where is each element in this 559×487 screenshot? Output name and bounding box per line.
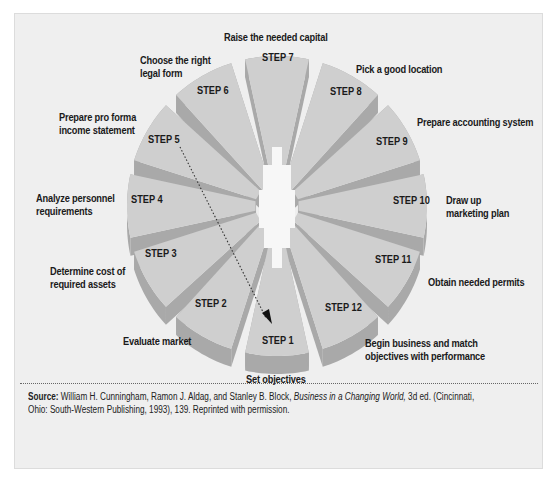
step-label-2: STEP 2 — [195, 297, 227, 309]
step-label-3: STEP 3 — [145, 247, 177, 259]
step-8-description: Pick a good location — [356, 63, 442, 76]
step-9-description: Prepare accounting system — [417, 116, 533, 129]
step-label-9: STEP 9 — [376, 135, 408, 147]
step-label-12: STEP 12 — [325, 301, 362, 313]
step-label-7: STEP 7 — [262, 51, 294, 63]
step-12-description: Begin business and match objectives with… — [365, 337, 485, 362]
step-label-8: STEP 8 — [330, 85, 362, 97]
source-authors: William H. Cunningham, Ramon J. Aldag, a… — [59, 391, 294, 402]
step-3-description: Determine cost of required assets — [50, 265, 125, 290]
step-label-6: STEP 6 — [197, 84, 229, 96]
step-10-description: Draw up marketing plan — [446, 194, 509, 219]
step-label-1: STEP 1 — [262, 334, 294, 346]
step-2-description: Evaluate market — [123, 335, 191, 348]
step-label-10: STEP 10 — [393, 194, 430, 206]
step-label-4: STEP 4 — [131, 193, 163, 205]
step-5-description: Prepare pro forma income statement — [59, 111, 136, 136]
source-book-title: Business in a Changing World, — [294, 391, 406, 402]
step-11-description: Obtain needed permits — [428, 276, 524, 289]
step-4-description: Analyze personnel requirements — [36, 192, 115, 217]
step-label-5: STEP 5 — [148, 133, 180, 145]
step-6-description: Choose the right legal form — [140, 54, 211, 79]
source-citation: Source: William H. Cunningham, Ramon J. … — [28, 390, 536, 416]
dotted-separator — [20, 383, 538, 384]
source-prefix: Source: — [28, 391, 59, 402]
step-7-description: Raise the needed capital — [224, 31, 328, 44]
step-label-11: STEP 11 — [375, 253, 411, 265]
